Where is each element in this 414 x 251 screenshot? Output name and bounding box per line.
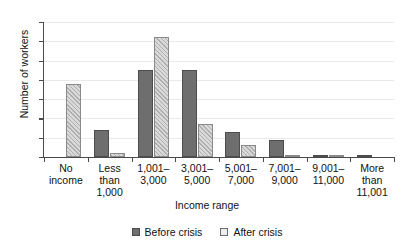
plot-area (44, 22, 394, 157)
x-axis-tick-label: 9,001–11,000 (307, 163, 351, 198)
x-axis-tick-label: Noincome (44, 163, 88, 198)
y-axis-tick (39, 80, 44, 81)
x-axis-tick-label: 7,001–9,000 (263, 163, 307, 198)
chart-figure: Number of workers 010203040506070 Noinco… (0, 0, 414, 251)
y-axis-tick (39, 22, 44, 23)
bar-group (307, 22, 351, 157)
y-axis-tick (39, 138, 44, 139)
bar-before-crisis[interactable] (182, 70, 197, 157)
x-axis-tick-label: 5,001–7,000 (219, 163, 263, 198)
legend-swatch-icon (132, 228, 140, 236)
bar-group (263, 22, 307, 157)
bar-after-crisis[interactable] (241, 145, 256, 157)
y-axis-tick (39, 61, 44, 62)
bar-after-crisis[interactable] (198, 124, 213, 157)
bar-group (132, 22, 176, 157)
x-axis-tick (307, 157, 308, 162)
legend-label: Before crisis (145, 226, 203, 238)
legend-label: After crisis (233, 226, 282, 238)
x-axis-tick (219, 157, 220, 162)
x-axis-tick (132, 157, 133, 162)
bar-group (88, 22, 132, 157)
y-axis-tick (39, 41, 44, 42)
bar-group (44, 22, 88, 157)
x-axis-tick (175, 157, 176, 162)
x-axis-tick-label: 1,001–3,000 (132, 163, 176, 198)
legend-item-after-crisis[interactable]: After crisis (220, 226, 282, 238)
y-axis-title: Number of workers (18, 14, 30, 134)
x-axis-tick-labels: NoincomeLessthan1,0001,001–3,0003,001–5,… (44, 163, 394, 198)
chart-legend: Before crisis After crisis (0, 226, 414, 238)
x-axis-tick (88, 157, 89, 162)
bar-before-crisis[interactable] (94, 130, 109, 157)
bar-groups (44, 22, 394, 157)
bar-group (175, 22, 219, 157)
x-axis-tick-label: Lessthan1,000 (88, 163, 132, 198)
x-axis-tick (350, 157, 351, 162)
y-axis-tick (39, 118, 44, 119)
bar-group (350, 22, 394, 157)
x-axis-tick-label: 3,001–5,000 (175, 163, 219, 198)
x-axis-tick (44, 157, 45, 162)
bar-before-crisis[interactable] (269, 140, 284, 157)
x-axis-title: Income range (0, 199, 414, 211)
bar-after-crisis[interactable] (66, 84, 81, 157)
bar-group (219, 22, 263, 157)
bar-before-crisis[interactable] (225, 132, 240, 157)
bar-after-crisis[interactable] (154, 37, 169, 157)
x-axis-tick-label: Morethan11,001 (350, 163, 394, 198)
legend-item-before-crisis[interactable]: Before crisis (132, 226, 203, 238)
x-axis-tick (263, 157, 264, 162)
x-axis-tick (394, 157, 395, 162)
bar-before-crisis[interactable] (138, 70, 153, 157)
legend-swatch-icon (220, 228, 228, 236)
y-axis-tick (39, 99, 44, 100)
